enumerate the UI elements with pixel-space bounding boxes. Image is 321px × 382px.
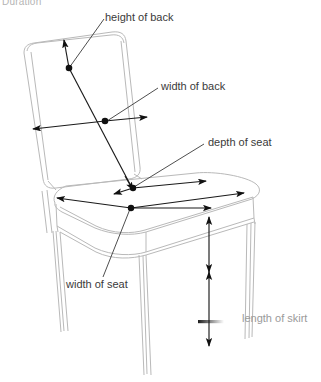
label-length-of-skirt: length of skirt — [242, 313, 307, 324]
seat-diagonal-arrow-ne — [131, 193, 244, 208]
dot-width-of-back — [102, 118, 109, 125]
width-of-seat-leader — [103, 209, 130, 277]
chair-line-drawing-svg — [0, 0, 321, 382]
label-height-of-back: height of back — [105, 12, 174, 23]
width-of-back-arrow-right — [105, 117, 147, 121]
label-depth-of-seat: depth of seat — [208, 137, 272, 148]
width-of-back-leader — [107, 88, 158, 121]
skirt-tick-mark — [198, 320, 224, 323]
label-width-of-back: width of back — [161, 81, 225, 92]
width-of-seat-arrow-w — [57, 198, 131, 208]
height-of-back-arrow — [64, 40, 69, 68]
depth-of-seat-leader — [134, 144, 204, 187]
chair-diagram-figure: Duration — [0, 0, 321, 382]
dot-depth-of-seat — [130, 185, 136, 191]
dot-height-of-back — [66, 65, 73, 72]
height-of-back-leader — [69, 19, 104, 68]
depth-of-seat-arrow-ne — [133, 181, 206, 188]
dimension-annotations — [33, 19, 244, 346]
label-width-of-seat: width of seat — [66, 279, 128, 290]
dot-width-of-seat — [128, 205, 134, 211]
width-of-back-arrow-left — [33, 121, 105, 129]
